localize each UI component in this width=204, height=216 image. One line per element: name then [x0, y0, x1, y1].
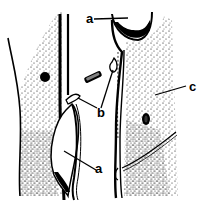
label-c: c: [189, 80, 196, 93]
figure-caption: [4, 204, 200, 212]
label-a-bottom: a: [95, 162, 102, 175]
left-outer-wall: [8, 38, 21, 196]
label-b: b: [97, 106, 105, 119]
label-a-top: a: [86, 12, 93, 25]
leader-b-left: [78, 98, 97, 108]
pit-connection-right: [110, 58, 117, 72]
left-nucleus: [40, 72, 50, 82]
pit-connection-left: [66, 94, 80, 104]
leader-b-right: [101, 70, 113, 108]
